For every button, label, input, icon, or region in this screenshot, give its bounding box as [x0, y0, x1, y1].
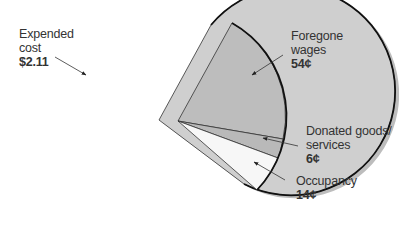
occupancy-value: 14¢	[296, 188, 357, 202]
donated-goods-label: Donated goods/ services 6¢	[306, 124, 391, 166]
foregone-wages-value: 54¢	[291, 57, 343, 71]
donated-goods-value: 6¢	[306, 152, 391, 166]
expended-cost-label: Expended cost $2.11	[19, 27, 74, 69]
expended-cost-value: $2.11	[19, 55, 74, 69]
foregone-wages-label: Foregone wages 54¢	[291, 29, 343, 71]
occupancy-label: Occupancy 14¢	[296, 174, 357, 202]
